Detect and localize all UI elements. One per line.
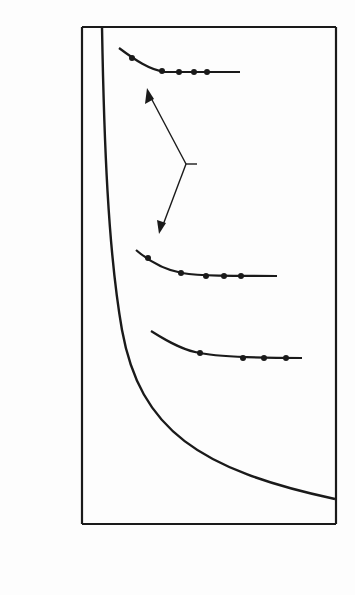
- coherent-biphase-curve: [151, 331, 302, 358]
- channel-capacity-curve: [102, 27, 335, 499]
- biorthogonal-5bit-curve: [136, 250, 277, 276]
- biorthogonal-arrows: [150, 96, 197, 225]
- biorthogonal-10bit-curve: [119, 48, 240, 72]
- arrowheads: [145, 88, 166, 234]
- chart: [0, 0, 355, 595]
